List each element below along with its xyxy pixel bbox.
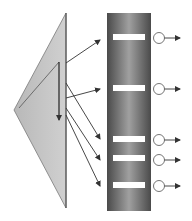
ray-arrow-icon: [66, 89, 100, 98]
column-body: [107, 13, 151, 211]
ray-arrow-icon: [66, 108, 100, 160]
band: [113, 182, 145, 188]
band: [113, 34, 145, 40]
detector-circle-icon: [154, 84, 165, 95]
band: [113, 136, 145, 142]
ray-arrow-icon: [66, 115, 100, 186]
detector-circle-icon: [154, 33, 165, 44]
band: [113, 85, 145, 91]
band: [113, 155, 145, 161]
prism: [14, 13, 66, 208]
dispersed-rays: [66, 40, 100, 186]
separation-column: [107, 13, 151, 211]
detector-circle-icon: [154, 135, 165, 146]
prism-body: [14, 13, 66, 208]
diagram-canvas: [0, 0, 192, 221]
ray-arrow-icon: [66, 40, 100, 63]
detector-circle-icon: [154, 181, 165, 192]
ray-arrow-icon: [66, 83, 100, 139]
detector-circle-icon: [154, 155, 165, 166]
detectors: [154, 33, 181, 192]
